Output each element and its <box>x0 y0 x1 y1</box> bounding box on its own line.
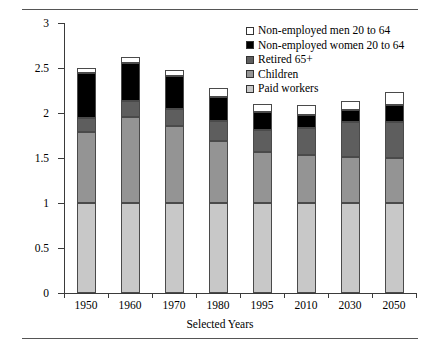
bar-segment <box>77 203 96 293</box>
bar-segment <box>165 109 184 126</box>
bar-segment <box>385 122 404 158</box>
bar-segment <box>77 73 96 117</box>
bar-segment <box>297 115 316 129</box>
x-tick-label: 1995 <box>251 299 274 311</box>
x-tick <box>196 293 197 298</box>
x-tick <box>64 293 65 298</box>
legend-label: Children <box>258 68 298 81</box>
x-tick <box>416 293 417 298</box>
bar-1950 <box>77 23 96 293</box>
x-tick-label: 2030 <box>339 299 362 311</box>
y-tick-label: 1 <box>43 197 58 209</box>
x-tick <box>108 293 109 298</box>
bar-segment <box>209 121 228 141</box>
x-tick-label: 1980 <box>207 299 230 311</box>
bar-segment <box>341 157 360 203</box>
bar-segment <box>341 110 360 122</box>
bar-segment <box>165 203 184 293</box>
bar-segment <box>165 70 184 76</box>
bar-segment <box>253 130 272 152</box>
x-tick <box>240 293 241 298</box>
bar-segment <box>209 203 228 293</box>
legend-item: Non-employed women 20 to 64 <box>246 39 404 52</box>
bar-segment <box>297 203 316 293</box>
bar-segment <box>121 117 140 203</box>
x-tick-label: 1960 <box>119 299 142 311</box>
x-axis-title: Selected Years <box>0 318 440 330</box>
legend-label: Non-employed men 20 to 64 <box>258 24 390 37</box>
x-tick <box>372 293 373 298</box>
bar-segment <box>385 203 404 293</box>
bar-segment <box>253 203 272 293</box>
legend-swatch-icon <box>246 27 254 35</box>
bar-segment <box>77 118 96 132</box>
bar-segment <box>77 68 96 73</box>
y-tick-label: 3 <box>43 17 58 29</box>
bar-segment <box>165 126 184 203</box>
legend-item: Children <box>246 68 404 81</box>
y-tick-label: 2 <box>43 107 58 119</box>
bar-segment <box>297 155 316 203</box>
legend-label: Non-employed women 20 to 64 <box>258 39 404 52</box>
legend-item: Non-employed men 20 to 64 <box>246 24 404 37</box>
x-tick <box>284 293 285 298</box>
x-tick <box>328 293 329 298</box>
x-tick-label: 2050 <box>383 299 406 311</box>
legend-item: Paid workers <box>246 82 404 95</box>
bar-segment <box>297 105 316 115</box>
legend-swatch-icon <box>246 56 254 64</box>
legend-label: Retired 65+ <box>258 53 313 66</box>
y-tick-label: 0 <box>43 287 58 299</box>
bar-segment <box>385 158 404 203</box>
bar-segment <box>341 101 360 110</box>
bar-1980 <box>209 23 228 293</box>
bar-segment <box>341 203 360 293</box>
legend-swatch-icon <box>246 70 254 78</box>
bar-1970 <box>165 23 184 293</box>
bar-segment <box>253 112 272 130</box>
legend-item: Retired 65+ <box>246 53 404 66</box>
figure-bottom-rule <box>22 338 418 339</box>
figure: 00.511.522.53 19501960197019801995201020… <box>0 0 440 351</box>
bar-1960 <box>121 23 140 293</box>
legend-swatch-icon <box>246 85 254 93</box>
x-tick-label: 1970 <box>163 299 186 311</box>
legend-label: Paid workers <box>258 82 318 95</box>
y-tick-label: 2.5 <box>35 62 58 74</box>
x-tick <box>152 293 153 298</box>
bar-segment <box>209 97 228 121</box>
bar-segment <box>165 76 184 108</box>
y-tick-label: 0.5 <box>35 242 58 254</box>
bar-segment <box>253 152 272 203</box>
bar-segment <box>121 203 140 293</box>
figure-top-rule <box>22 9 418 10</box>
legend-swatch-icon <box>246 41 254 49</box>
bar-segment <box>297 128 316 155</box>
x-tick-label: 1950 <box>75 299 98 311</box>
bar-segment <box>77 132 96 203</box>
bar-segment <box>385 105 404 122</box>
bar-segment <box>121 63 140 102</box>
bar-segment <box>121 101 140 116</box>
x-tick-label: 2010 <box>295 299 318 311</box>
bar-segment <box>209 141 228 203</box>
legend: Non-employed men 20 to 64Non-employed wo… <box>246 24 404 97</box>
bar-segment <box>121 57 140 62</box>
bar-segment <box>209 88 228 97</box>
y-tick-label: 1.5 <box>35 152 58 164</box>
bar-segment <box>253 104 272 112</box>
bar-segment <box>341 122 360 157</box>
